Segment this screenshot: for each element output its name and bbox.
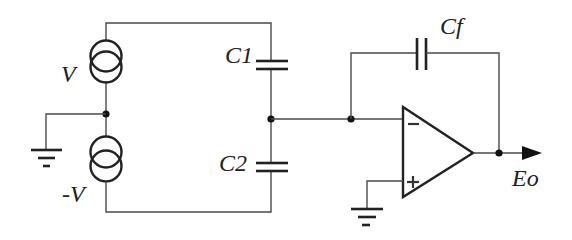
label-c1: C1 <box>225 42 253 68</box>
circuit-diagram: V -V C1 C2 Cf <box>0 0 572 240</box>
feedback-wire-right <box>426 53 499 153</box>
capacitor-cf <box>417 38 426 70</box>
label-v: V <box>61 61 78 87</box>
label-neg-v: -V <box>62 181 87 207</box>
label-eo: Eo <box>511 165 539 191</box>
ground-wire-left <box>46 114 106 150</box>
ground-icon-right <box>351 209 383 225</box>
ground-icon-left <box>31 150 62 166</box>
junction-node-output <box>495 149 502 156</box>
output-arrow-icon <box>522 146 542 160</box>
bottom-wire <box>106 171 271 212</box>
source-neg-v-circle-top <box>91 137 122 168</box>
opamp-noninverting-sign <box>407 176 419 188</box>
current-source-v <box>91 41 122 83</box>
label-cf: Cf <box>440 13 466 39</box>
label-c2: C2 <box>219 150 247 176</box>
noninverting-input-wire <box>367 181 403 209</box>
source-neg-v-circle-bottom <box>91 151 122 182</box>
capacitor-c1 <box>256 61 288 69</box>
current-source-neg-v <box>91 137 122 182</box>
capacitor-c2 <box>256 163 288 171</box>
